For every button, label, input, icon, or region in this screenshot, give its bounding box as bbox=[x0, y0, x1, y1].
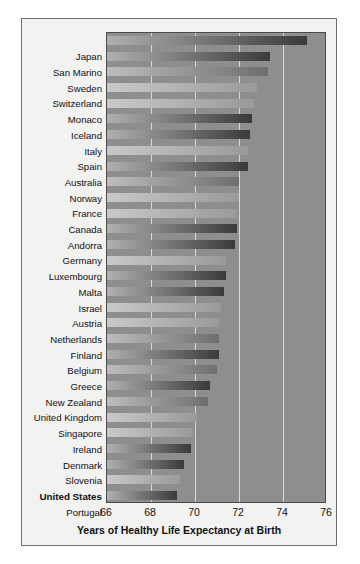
bar-united-states bbox=[107, 475, 180, 484]
bar-row bbox=[107, 221, 325, 237]
category-label-greece: Greece bbox=[71, 382, 102, 392]
bar-australia bbox=[107, 162, 248, 171]
bar-ireland bbox=[107, 428, 193, 437]
x-axis-title: Years of Healthy Life Expectancy at Birt… bbox=[22, 524, 336, 536]
bar-row bbox=[107, 64, 325, 80]
category-label-spain: Spain bbox=[77, 162, 102, 172]
bar-sweden bbox=[107, 67, 268, 76]
bar-row bbox=[107, 300, 325, 316]
category-label-finland: Finland bbox=[71, 351, 102, 361]
category-label-france: France bbox=[72, 209, 102, 219]
bar-belgium bbox=[107, 350, 219, 359]
bar-japan bbox=[107, 36, 307, 45]
bar-finland bbox=[107, 334, 219, 343]
x-tick-66: 66 bbox=[100, 506, 112, 518]
bar-andorra bbox=[107, 224, 237, 233]
bar-israel bbox=[107, 287, 224, 296]
category-label-san-marino: San Marino bbox=[53, 68, 102, 78]
bar-row bbox=[107, 394, 325, 410]
bar-row bbox=[107, 159, 325, 175]
bar-row bbox=[107, 347, 325, 363]
category-label-australia: Australia bbox=[65, 178, 102, 188]
bar-row bbox=[107, 315, 325, 331]
bar-canada bbox=[107, 209, 237, 218]
plot-area-wrapper bbox=[106, 32, 326, 503]
plot-area bbox=[106, 32, 326, 503]
category-label-japan: Japan bbox=[76, 52, 102, 62]
bar-portugal bbox=[107, 491, 177, 500]
x-axis-tick-labels: 666870727476 bbox=[106, 506, 326, 520]
bar-row bbox=[107, 127, 325, 143]
category-label-new-zealand: New Zealand bbox=[45, 398, 102, 408]
category-label-slovenia: Slovenia bbox=[65, 476, 102, 486]
bar-row bbox=[107, 96, 325, 112]
bar-row bbox=[107, 441, 325, 457]
category-label-monaco: Monaco bbox=[68, 115, 102, 125]
bar-new-zealand bbox=[107, 381, 210, 390]
bar-austria bbox=[107, 303, 221, 312]
bar-malta bbox=[107, 271, 226, 280]
category-label-canada: Canada bbox=[68, 225, 102, 235]
bar-singapore bbox=[107, 413, 197, 422]
bar-row bbox=[107, 237, 325, 253]
bar-row bbox=[107, 472, 325, 488]
bar-row bbox=[107, 457, 325, 473]
bar-france bbox=[107, 193, 239, 202]
bar-row bbox=[107, 425, 325, 441]
category-label-andorra: Andorra bbox=[68, 241, 102, 251]
category-label-norway: Norway bbox=[69, 194, 102, 204]
bar-row bbox=[107, 111, 325, 127]
category-label-austria: Austria bbox=[72, 319, 102, 329]
bar-row bbox=[107, 206, 325, 222]
bar-row bbox=[107, 80, 325, 96]
bar-row bbox=[107, 284, 325, 300]
bar-row bbox=[107, 33, 325, 49]
category-label-iceland: Iceland bbox=[71, 131, 102, 141]
bar-row bbox=[107, 410, 325, 426]
category-label-portugal: Portugal bbox=[66, 508, 102, 518]
category-axis-labels: JapanSan MarinoSwedenSwitzerlandMonacoIc… bbox=[22, 50, 104, 521]
category-label-united-kingdom: United Kingdom bbox=[34, 413, 102, 423]
bar-row bbox=[107, 488, 325, 503]
category-label-italy: Italy bbox=[84, 147, 102, 157]
bar-norway bbox=[107, 177, 239, 186]
category-label-israel: Israel bbox=[79, 304, 102, 314]
bar-row bbox=[107, 253, 325, 269]
bar-switzerland bbox=[107, 83, 257, 92]
category-label-denmark: Denmark bbox=[63, 461, 102, 471]
bar-netherlands bbox=[107, 318, 219, 327]
bar-row bbox=[107, 49, 325, 65]
category-label-netherlands: Netherlands bbox=[50, 335, 102, 345]
x-tick-70: 70 bbox=[188, 506, 200, 518]
bar-row bbox=[107, 174, 325, 190]
category-label-switzerland: Switzerland bbox=[52, 99, 102, 109]
bar-slovenia bbox=[107, 460, 184, 469]
bar-germany bbox=[107, 240, 235, 249]
category-label-luxembourg: Luxembourg bbox=[49, 272, 102, 282]
bar-spain bbox=[107, 146, 248, 155]
bar-row bbox=[107, 268, 325, 284]
bar-denmark bbox=[107, 444, 191, 453]
bar-italy bbox=[107, 130, 250, 139]
category-label-belgium: Belgium bbox=[67, 366, 102, 376]
bar-row bbox=[107, 190, 325, 206]
bar-rows bbox=[107, 33, 325, 502]
chart-figure: JapanSan MarinoSwedenSwitzerlandMonacoIc… bbox=[21, 18, 337, 546]
bar-row bbox=[107, 331, 325, 347]
bar-united-kingdom bbox=[107, 397, 208, 406]
category-label-singapore: Singapore bbox=[58, 429, 102, 439]
bar-iceland bbox=[107, 114, 252, 123]
bar-monaco bbox=[107, 99, 254, 108]
bar-row bbox=[107, 362, 325, 378]
x-tick-68: 68 bbox=[144, 506, 156, 518]
bar-greece bbox=[107, 365, 217, 374]
category-label-united-states: United States bbox=[39, 492, 102, 502]
bar-row bbox=[107, 143, 325, 159]
bar-san-marino bbox=[107, 52, 270, 61]
category-label-sweden: Sweden bbox=[67, 84, 102, 94]
x-tick-74: 74 bbox=[276, 506, 288, 518]
category-label-ireland: Ireland bbox=[73, 445, 102, 455]
x-tick-72: 72 bbox=[232, 506, 244, 518]
category-label-malta: Malta bbox=[79, 288, 102, 298]
category-label-germany: Germany bbox=[63, 256, 102, 266]
